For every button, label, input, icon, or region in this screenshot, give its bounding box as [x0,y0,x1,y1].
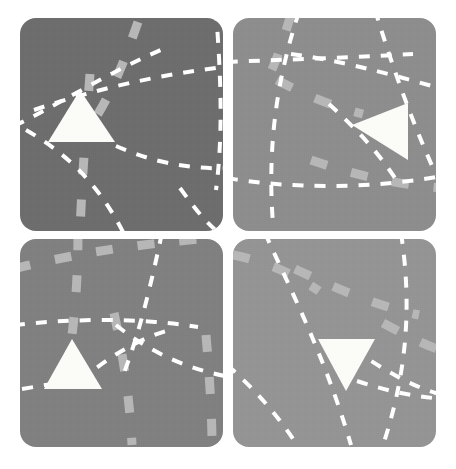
thin-dashed-path-5 [116,146,223,168]
triangle-up[interactable] [48,90,115,142]
thick-dashed-path-2 [277,80,363,114]
thick-dashed-path-2 [72,239,78,335]
panel-top-right-graphics [233,18,436,231]
panel-bottom-right-graphics [233,239,436,447]
panel-top-left-thin-dashed-paths [20,18,223,231]
thin-dashed-path-2 [271,18,299,224]
thick-dashed-path-4 [206,335,212,445]
thick-dashed-path-1 [20,239,200,269]
panel-bottom-left[interactable] [20,239,223,447]
panel-top-left-graphics [20,18,223,231]
thick-dashed-path-3 [311,160,436,188]
thin-dashed-path-3 [216,18,221,190]
thin-dashed-path-6 [180,188,223,231]
thick-dashed-path-3 [383,323,436,351]
panel-grid-canvas [0,0,456,469]
panel-top-right[interactable] [233,18,436,231]
panel-bottom-right[interactable] [233,239,436,447]
thin-dashed-path-2 [233,365,297,445]
triangle-up[interactable] [44,339,102,389]
panel-bottom-left-thick-dashed-paths [20,239,212,445]
thin-dashed-path-1 [20,320,198,327]
panel-top-right-thick-dashed-paths [263,18,436,188]
thin-dashed-path-3 [291,54,436,88]
thin-dashed-path-3 [383,239,407,445]
thin-dashed-path-4 [26,130,124,231]
panel-bottom-left-graphics [20,239,223,447]
thin-dashed-path-2 [34,66,223,110]
panel-top-left[interactable] [20,18,223,231]
thick-dashed-path-1 [263,18,291,88]
